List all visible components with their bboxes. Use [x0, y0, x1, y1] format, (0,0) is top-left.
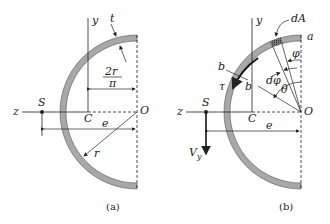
point-a-label: a	[307, 30, 314, 43]
centroid-distance-denominator: π	[108, 77, 117, 90]
thickness-arrow-inner-a	[120, 46, 126, 62]
centroid-label-b: C	[248, 112, 257, 125]
caption-b: (b)	[279, 201, 293, 212]
figure-a: y t 2r π z S C O e r (a)	[12, 12, 149, 212]
dphi-arc	[284, 68, 297, 70]
thickness-arrow-outer-a	[111, 24, 116, 36]
dA-leader	[276, 20, 289, 36]
z-axis-label-a: z	[12, 105, 19, 118]
z-axis-label-b: z	[176, 105, 183, 118]
y-axis-label-b: y	[255, 14, 263, 27]
radius-label-a: r	[94, 147, 100, 160]
thickness-label-a: t	[110, 12, 115, 25]
shear-center-label-b: S	[202, 96, 210, 109]
shear-stress-label: τ	[219, 80, 226, 93]
figure-b: y dA a φ dφ θ b b τ z S C O e Vy (b)	[176, 12, 314, 212]
dA-label: dA	[291, 12, 306, 25]
center-label-a: O	[140, 104, 149, 117]
centroid-label-a: C	[84, 112, 93, 125]
theta-label: θ	[281, 83, 288, 96]
phi-label: φ	[292, 47, 300, 60]
eccentricity-label-a: e	[102, 117, 109, 130]
y-axis-label-a: y	[91, 14, 99, 27]
caption-a: (a)	[106, 201, 120, 212]
diagram-canvas: y t 2r π z S C O e r (a)	[0, 0, 330, 224]
center-label-b: O	[304, 105, 313, 118]
shear-center-label-a: S	[38, 96, 46, 109]
dphi-label: dφ	[266, 74, 281, 87]
area-element-dA	[270, 38, 283, 47]
section-b-inner-label: b	[245, 80, 252, 93]
eccentricity-label-b: e	[266, 119, 273, 132]
shear-force-label: Vy	[189, 146, 202, 161]
section-b-outer-label: b	[218, 60, 225, 73]
phi-arc	[288, 60, 301, 61]
